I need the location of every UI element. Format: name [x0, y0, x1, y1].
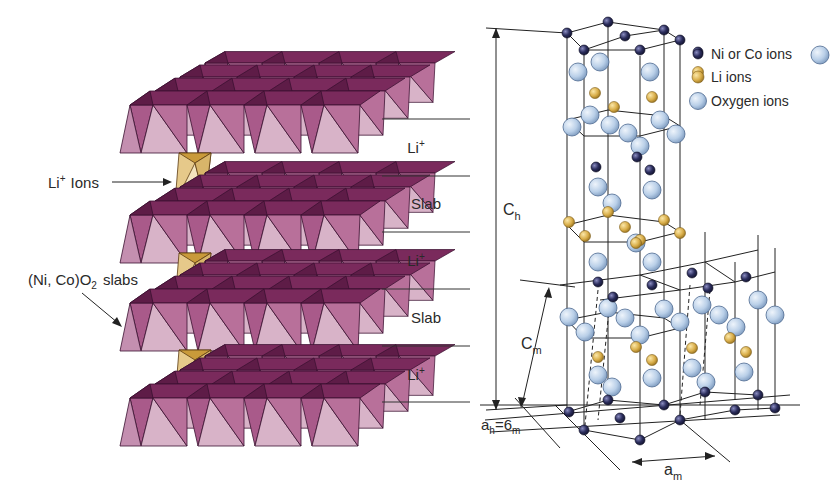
arrow-head-icon: [163, 178, 172, 186]
layer-label-slab-1: Slab: [411, 195, 441, 212]
slab-4: [120, 345, 455, 446]
arrow-head-icon: [112, 317, 122, 327]
slab-3: [120, 250, 455, 351]
legend-oxygen-label: Oxygen ions: [711, 93, 789, 109]
li-ions-annotation: Li+Ions: [48, 173, 172, 191]
layered-oxide-structure-diagram: Li+Ions (Ni, Co)O2slabs Li+ Slab Li+ Sla…: [0, 0, 838, 493]
am-label: am: [664, 461, 682, 482]
layer-label-li-1: Li+: [407, 138, 425, 156]
polyhedral-stack: [120, 52, 455, 446]
li-ions-label: Li+Ions: [48, 173, 99, 191]
ah-equals-label: ah=6m: [481, 416, 520, 436]
cm-label: Cm: [521, 335, 542, 356]
slabs-annotation: (Ni, Co)O2slabs: [28, 271, 138, 327]
ni-co-swatch-icon: [693, 49, 703, 59]
layer-label-slab-2: Slab: [411, 309, 441, 326]
legend-li-label: Li ions: [711, 69, 751, 85]
legend-ni-co-label: Ni or Co ions: [711, 46, 792, 62]
slab-1: [120, 52, 455, 153]
ch-label: Ch: [503, 201, 521, 222]
legend: Ni or Co ions Li ions Oxygen ions: [690, 46, 792, 110]
slab-2: [120, 162, 455, 263]
li-swatch-icon: [692, 71, 704, 83]
oxygen-swatch-icon: [690, 93, 707, 110]
slabs-label: (Ni, Co)O2slabs: [28, 271, 138, 291]
